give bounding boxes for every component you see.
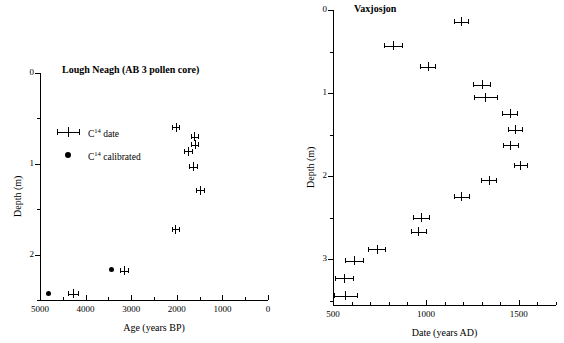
- error-bar-cap-left: [334, 293, 335, 298]
- chart-panel-vaxjosjon: 012350010001500VaxjosjonDate (years AD)D…: [0, 0, 564, 343]
- error-bar-horizontal: [334, 296, 357, 297]
- figure-root: 012500040003000200010000Lough Neagh (AB …: [0, 0, 564, 343]
- data-point-c14-date: [0, 0, 564, 343]
- error-bar-cap-right: [357, 293, 358, 298]
